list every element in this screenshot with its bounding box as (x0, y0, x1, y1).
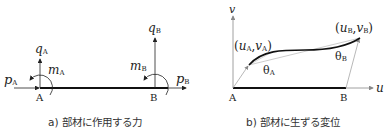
label-q-a: qA (35, 42, 49, 56)
displacement-line-b (346, 39, 359, 88)
label-m-b: mB (130, 59, 147, 73)
caption-a: a) 部材に作用する力 (48, 116, 142, 128)
axis-label-u: u (376, 81, 384, 95)
node-label-a: A (35, 92, 44, 103)
diagram-canvas: A B pA qA mA pB qB mB a) 部材に作用する力 v u A … (0, 0, 385, 136)
panel-a-forces: A B pA qA mA pB qB mB a) 部材に作用する力 (4, 21, 189, 128)
panel-b-displacements: v u A B (uA,vA) (uB,vB) θA θB b) 部材に生ずる変… (228, 3, 384, 128)
displacement-line-a (233, 66, 248, 88)
theta-a-label: θA (263, 64, 276, 77)
caption-b: b) 部材に生ずる変位 (246, 116, 341, 128)
label-p-b: pB (176, 71, 189, 86)
label-p-a: pA (4, 72, 18, 87)
point-label-a: (uA,vA) (234, 39, 272, 53)
point-label-b: (uB,vB) (335, 21, 373, 35)
label-m-a: mA (48, 63, 65, 77)
node-label-b: B (340, 92, 347, 103)
label-q-b: qB (148, 21, 161, 35)
theta-b-label: θB (335, 50, 347, 63)
node-label-a: A (228, 92, 237, 103)
axis-label-v: v (229, 3, 236, 16)
node-label-b: B (150, 92, 157, 103)
